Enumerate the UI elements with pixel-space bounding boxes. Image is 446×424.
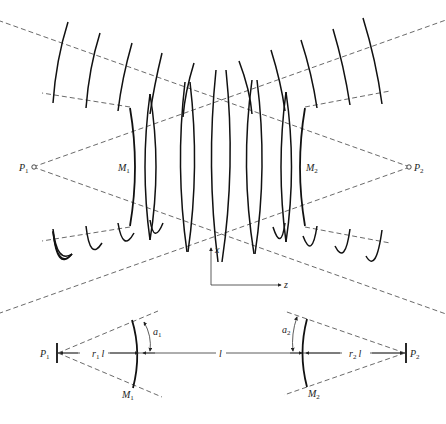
x-axis-label: x xyxy=(214,244,220,255)
wavefronts-lower-left-real xyxy=(53,229,72,256)
wavefronts-lower-right xyxy=(273,223,382,261)
label-m2-bottom: M2 xyxy=(307,388,320,401)
coordinate-axes: x z xyxy=(211,244,288,290)
resonator-figure: P1 P2 M1 M2 x z xyxy=(0,0,446,424)
p2-source-point xyxy=(407,165,411,169)
label-a1: a1 xyxy=(153,326,162,339)
mirror-m1 xyxy=(130,108,135,226)
wavefronts-upper-left xyxy=(53,22,194,117)
label-p1-bottom: P1 xyxy=(39,348,50,361)
p1-source-point xyxy=(32,165,36,169)
top-panel: P1 P2 M1 M2 xyxy=(0,18,446,314)
mirror-m1-bottom xyxy=(132,320,137,388)
p2-beam-lines xyxy=(0,21,410,313)
angle-a2-arc xyxy=(293,317,298,351)
label-p2-bottom: P2 xyxy=(409,348,420,361)
angle-a1-arc xyxy=(144,322,150,351)
label-p2-top: P2 xyxy=(413,162,424,175)
z-axis-label: z xyxy=(283,279,288,290)
wavefronts-upper-right xyxy=(239,18,382,114)
label-p1-top: P1 xyxy=(18,162,29,175)
mirror-m2 xyxy=(300,108,305,226)
label-l: l xyxy=(219,348,222,359)
label-m2-top: M2 xyxy=(305,162,318,175)
label-m1-top: M1 xyxy=(117,162,130,175)
label-m1-bottom: M1 xyxy=(121,389,134,402)
bottom-panel: P1 P2 M1 M2 a1 a2 r1l r2l l xyxy=(39,311,420,402)
label-a2: a2 xyxy=(282,324,291,337)
